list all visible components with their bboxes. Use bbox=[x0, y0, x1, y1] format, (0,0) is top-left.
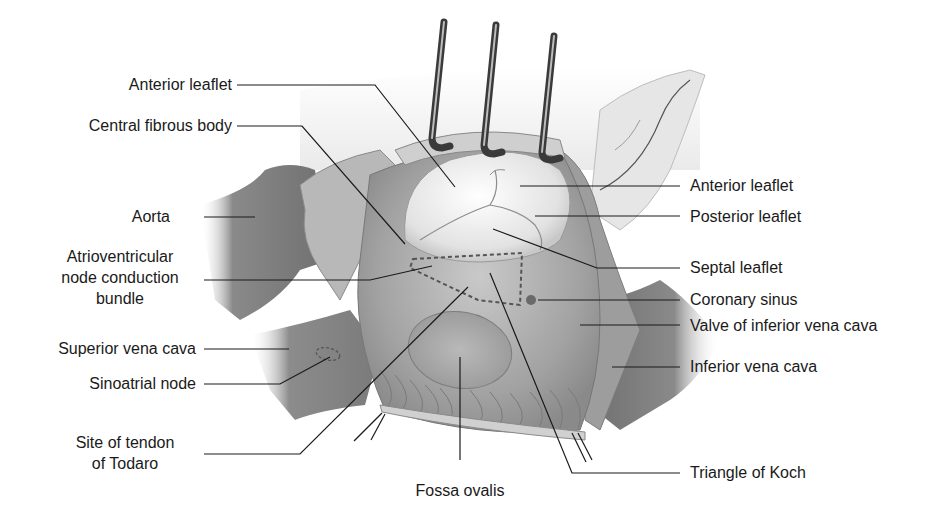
label-coronary-sinus: Coronary sinus bbox=[690, 289, 798, 310]
label-av-node: Atrioventricular node conduction bundle bbox=[40, 246, 200, 309]
label-central-fibrous-body: Central fibrous body bbox=[89, 115, 232, 136]
label-tendon-of-todaro: Site of tendon of Todaro bbox=[50, 432, 200, 474]
label-valve-ivc: Valve of inferior vena cava bbox=[690, 315, 877, 336]
coronary-sinus-opening bbox=[526, 295, 536, 305]
label-septal-leaflet: Septal leaflet bbox=[690, 257, 783, 278]
label-fossa-ovalis: Fossa ovalis bbox=[400, 480, 520, 501]
label-inferior-vena-cava: Inferior vena cava bbox=[690, 356, 817, 377]
label-tendon-line1: Site of tendon bbox=[50, 432, 200, 453]
label-av-node-line2: node conduction bbox=[40, 267, 200, 288]
label-sinoatrial-node: Sinoatrial node bbox=[89, 373, 196, 394]
label-posterior-leaflet: Posterior leaflet bbox=[690, 206, 801, 227]
label-superior-vena-cava: Superior vena cava bbox=[58, 338, 196, 359]
label-av-node-line3: bundle bbox=[40, 288, 200, 309]
label-aorta: Aorta bbox=[132, 206, 170, 227]
label-tendon-line2: of Todaro bbox=[50, 453, 200, 474]
label-anterior-leaflet-left: Anterior leaflet bbox=[129, 74, 232, 95]
label-anterior-leaflet-right: Anterior leaflet bbox=[690, 175, 793, 196]
label-av-node-line1: Atrioventricular bbox=[40, 246, 200, 267]
label-triangle-of-koch: Triangle of Koch bbox=[690, 462, 806, 483]
